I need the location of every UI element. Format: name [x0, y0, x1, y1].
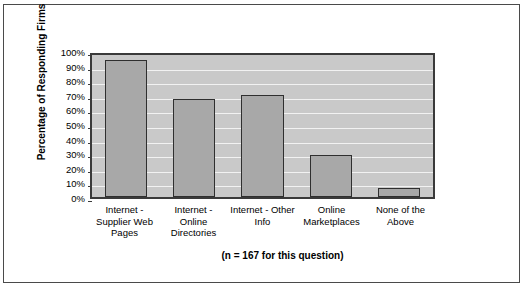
x-axis-tick-labels: Internet - Supplier Web PagesInternet - …: [90, 204, 435, 239]
y-tick-label: 10%: [47, 179, 85, 189]
bar-slot: [160, 55, 228, 197]
y-tick-label: 0%: [47, 194, 85, 204]
y-axis-tick-labels: 100%90%80%70%60%50%40%30%20%10%0%: [47, 48, 85, 204]
bar-slot: [297, 55, 365, 197]
bar-slot: [228, 55, 296, 197]
x-tick-label: Internet - Online Directories: [159, 204, 228, 239]
y-tick-label: 50%: [47, 121, 85, 131]
bar-slot: [365, 55, 433, 197]
bar[interactable]: [173, 99, 215, 197]
bar[interactable]: [310, 155, 352, 197]
y-tick-label: 100%: [47, 48, 85, 58]
plot-area: [90, 53, 435, 199]
chart-annotation: (n = 167 for this question): [0, 250, 525, 261]
y-tick-label: 20%: [47, 165, 85, 175]
y-tick-label: 30%: [47, 150, 85, 160]
y-tick-label: 40%: [47, 136, 85, 146]
y-axis-tick: [88, 201, 92, 202]
y-tick-label: 70%: [47, 92, 85, 102]
bar-series: [92, 55, 433, 197]
chart-figure: Percentage of Responding Firms 100%90%80…: [0, 0, 525, 288]
y-tick-label: 60%: [47, 106, 85, 116]
y-tick-label: 90%: [47, 63, 85, 73]
x-tick-label: Internet - Supplier Web Pages: [90, 204, 159, 239]
bar-slot: [92, 55, 160, 197]
bar[interactable]: [241, 95, 283, 197]
x-tick-label: Internet - Other Info: [228, 204, 297, 239]
bar[interactable]: [378, 188, 420, 197]
x-tick-label: None of the Above: [366, 204, 435, 239]
bar[interactable]: [105, 60, 147, 197]
y-tick-label: 80%: [47, 77, 85, 87]
x-tick-label: Online Marketplaces: [297, 204, 366, 239]
